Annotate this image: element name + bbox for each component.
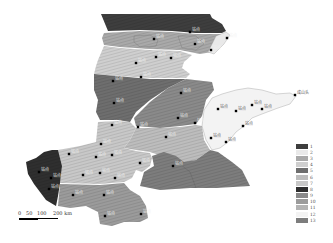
- station-marker: [113, 102, 115, 104]
- legend-swatch: [296, 187, 308, 192]
- station-label: 站点: [192, 26, 200, 32]
- station-label: 站点: [98, 151, 106, 157]
- station-label: 站点: [71, 148, 79, 154]
- station-marker: [170, 57, 172, 59]
- station-label: 站点: [220, 103, 228, 109]
- station-label: 站点: [51, 183, 59, 189]
- station-label: 站点: [238, 105, 246, 111]
- legend-label: 9: [310, 193, 313, 198]
- station-marker: [99, 172, 101, 174]
- station-marker: [38, 171, 40, 173]
- station-label: 站点: [143, 208, 151, 214]
- station-label: 站点: [228, 136, 236, 142]
- station-label: 站点: [180, 112, 188, 118]
- legend-label: 12: [310, 212, 316, 217]
- station-marker: [261, 108, 263, 110]
- station-label: 站点: [114, 119, 122, 125]
- station-label: 站点: [116, 97, 124, 103]
- station-marker: [180, 92, 182, 94]
- station-marker: [112, 80, 114, 82]
- station-marker: [72, 194, 74, 196]
- station-label: 站点: [114, 149, 122, 155]
- station-marker: [217, 108, 219, 110]
- station-marker: [68, 153, 70, 155]
- legend-label: 11: [310, 205, 316, 210]
- station-marker: [226, 37, 228, 39]
- legend-swatch: [296, 150, 308, 155]
- station-label: 站点: [85, 169, 93, 175]
- legend-swatch: [296, 156, 308, 161]
- legend-label: 2: [310, 150, 313, 155]
- legend-swatch: [296, 162, 308, 167]
- station-label: 成山头: [297, 89, 309, 95]
- station-marker: [210, 49, 212, 51]
- station-marker: [137, 126, 139, 128]
- station-marker: [104, 215, 106, 217]
- zone-1-region: [101, 14, 226, 33]
- legend-label: 3: [310, 156, 313, 161]
- station-marker: [194, 122, 196, 124]
- station-marker: [172, 165, 174, 167]
- station-marker: [50, 177, 52, 179]
- station-label: 站点: [245, 120, 253, 126]
- legend-swatch: [296, 218, 308, 223]
- station-label: 站点: [138, 57, 146, 63]
- station-label: 站点: [183, 87, 191, 93]
- station-label: 站点: [106, 189, 114, 195]
- station-label: 站点: [197, 117, 205, 123]
- scale-tick-0: 0: [18, 210, 21, 216]
- legend-swatch: [296, 181, 308, 186]
- station-label: 站点: [143, 71, 151, 77]
- station-marker: [155, 56, 157, 58]
- legend-label: 10: [310, 199, 316, 204]
- station-marker: [242, 125, 244, 127]
- scale-tick-200: 200 km: [53, 210, 72, 216]
- station-marker: [210, 137, 212, 139]
- station-marker: [153, 38, 155, 40]
- legend-item: 13: [296, 217, 330, 223]
- station-label: 站点: [197, 38, 205, 44]
- scale-bar-segment: [38, 219, 58, 220]
- station-marker: [111, 124, 113, 126]
- station-label: 站点: [213, 132, 221, 138]
- legend-label: 6: [310, 175, 313, 180]
- legend-label: 5: [310, 168, 313, 173]
- legend-label: 7: [310, 181, 313, 186]
- legend-swatch: [296, 199, 308, 204]
- legend-label: 4: [310, 162, 313, 167]
- station-marker: [194, 43, 196, 45]
- station-label: 站点: [117, 172, 125, 178]
- station-label: 站点: [103, 138, 111, 144]
- scale-bar: 0 50 100 200 km: [18, 210, 78, 224]
- station-marker: [140, 76, 142, 78]
- station-label: 站点: [264, 103, 272, 109]
- station-marker: [235, 110, 237, 112]
- station-label: 站点: [156, 33, 164, 39]
- legend-label: 8: [310, 187, 313, 192]
- station-label: 站点: [107, 210, 115, 216]
- station-marker: [139, 162, 141, 164]
- station-marker: [82, 174, 84, 176]
- zone-12-region: [202, 88, 296, 150]
- station-marker: [114, 177, 116, 179]
- station-label: 站点: [168, 131, 176, 137]
- zone-8-region: [26, 150, 62, 206]
- station-marker: [189, 31, 191, 33]
- station-marker: [294, 94, 296, 96]
- zoning-map: 站点站点站点站点站点站点站点站点站点站点站点站点站点站点站点站点站点站点站点站点…: [0, 0, 333, 243]
- legend-swatch: [296, 193, 308, 198]
- legend-swatch: [296, 205, 308, 210]
- station-label: 站点: [140, 121, 148, 127]
- station-label: 站点: [41, 166, 49, 172]
- station-label: 站点: [115, 75, 123, 81]
- legend-label: 13: [310, 218, 316, 223]
- scale-tick-50: 50: [26, 210, 32, 216]
- station-label: 站点: [254, 99, 262, 105]
- station-marker: [100, 143, 102, 145]
- station-marker: [225, 141, 227, 143]
- station-label: 站点: [173, 52, 181, 58]
- scale-tick-100: 100: [37, 210, 47, 216]
- station-marker: [48, 188, 50, 190]
- station-label: 站点: [229, 32, 237, 38]
- station-label: 站点: [102, 167, 110, 173]
